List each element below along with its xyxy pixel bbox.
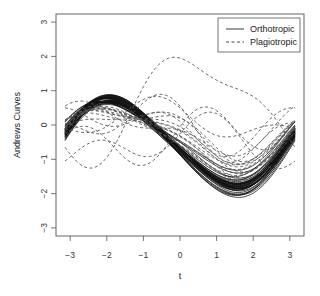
legend-label-orthotropic: Orthotropic — [250, 24, 295, 34]
y-tick-label: 2 — [39, 54, 49, 59]
legend: Orthotropic Plagiotropic — [218, 18, 300, 52]
andrews-curves-chart: −3−2−10123 −3−2−10123 t Andrews Curves O… — [0, 0, 320, 296]
x-tick-label: 2 — [251, 250, 256, 260]
x-tick-label: 3 — [287, 250, 292, 260]
x-tick-label: 1 — [214, 250, 219, 260]
y-axis-title: Andrews Curves — [12, 91, 22, 158]
y-tick-label: 1 — [39, 88, 49, 93]
y-tick-label: −1 — [39, 154, 49, 164]
y-tick-label: 3 — [39, 19, 49, 24]
y-tick-label: −2 — [39, 188, 49, 198]
y-tick-label: 0 — [39, 122, 49, 127]
legend-label-plagiotropic: Plagiotropic — [250, 37, 298, 47]
y-tick-label: −3 — [39, 223, 49, 233]
x-tick-label: −3 — [65, 250, 75, 260]
x-tick-label: 0 — [178, 250, 183, 260]
x-tick-label: −1 — [139, 250, 149, 260]
x-tick-label: −2 — [102, 250, 112, 260]
